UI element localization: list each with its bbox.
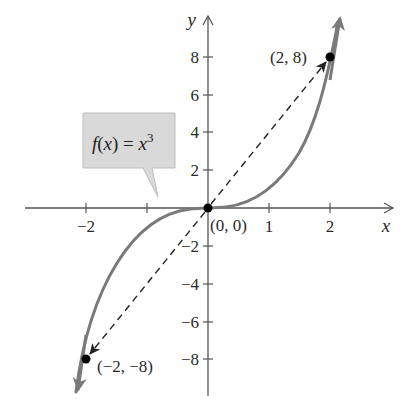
y-tick-label: −8 <box>181 350 199 369</box>
y-tick-label: −4 <box>181 275 200 294</box>
x-axis-label: x <box>381 215 391 236</box>
point-2-8 <box>326 53 335 62</box>
x-tick-label: 1 <box>265 217 274 236</box>
y-tick-label: 2 <box>191 161 200 180</box>
point-origin <box>204 204 213 213</box>
svg-text:f(x) = x3: f(x) = x3 <box>92 130 154 155</box>
x-tick-label: −2 <box>77 217 95 236</box>
point-neg2-neg8 <box>82 355 91 364</box>
y-tick-label: 8 <box>191 48 200 67</box>
cubic-function-graph: −2 1 2 x 8 6 4 2 −2 −4 −6 −8 y f(x) = x3… <box>0 0 416 417</box>
function-callout: f(x) = x3 <box>83 113 175 197</box>
x-tick-label: 2 <box>326 217 335 236</box>
y-axis-label: y <box>186 9 197 30</box>
point-label-origin: (0, 0) <box>210 216 247 235</box>
y-tick-label: 6 <box>191 86 200 105</box>
point-label-neg2-neg8: (−2, −8) <box>97 357 153 376</box>
y-tick-label: −2 <box>181 237 199 256</box>
y-tick-label: 4 <box>191 123 200 142</box>
point-label-2-8: (2, 8) <box>270 48 307 67</box>
y-tick-label: −6 <box>181 313 199 332</box>
